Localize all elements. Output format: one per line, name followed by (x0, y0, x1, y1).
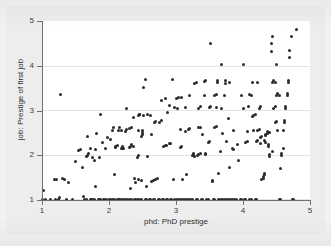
data-point (288, 49, 291, 52)
data-point (240, 94, 243, 97)
data-point (223, 94, 226, 97)
data-point (94, 185, 97, 188)
data-point (144, 78, 147, 81)
data-point (295, 28, 298, 31)
data-point (132, 145, 135, 148)
x-tick-label: 4 (233, 207, 253, 215)
data-point (124, 130, 127, 133)
data-point (132, 116, 135, 119)
data-point (180, 96, 183, 99)
data-point (146, 155, 149, 158)
x-tick-label: 2 (99, 207, 119, 215)
data-point (225, 140, 228, 143)
data-point (256, 81, 259, 84)
data-point (142, 114, 145, 117)
data-point (55, 178, 58, 181)
data-point (169, 142, 172, 145)
data-point (246, 140, 249, 143)
data-point (221, 132, 224, 135)
x-tick-mark (42, 200, 43, 205)
data-point (165, 144, 168, 147)
data-point (180, 145, 183, 148)
data-point (279, 167, 282, 170)
data-point (258, 128, 261, 131)
data-point (209, 42, 212, 45)
data-point (134, 181, 137, 184)
data-point (247, 105, 250, 108)
data-point (267, 143, 270, 146)
data-point (188, 127, 191, 130)
data-point (101, 141, 104, 144)
data-point (259, 105, 262, 108)
x-tick-label: 3 (166, 207, 186, 215)
data-point (271, 150, 274, 153)
y-tick-label: 1 (20, 196, 34, 204)
data-point (171, 78, 174, 81)
data-point (286, 92, 289, 95)
data-point (270, 42, 273, 45)
data-point (283, 119, 286, 122)
data-point (268, 131, 271, 134)
data-point (164, 97, 167, 100)
data-point (274, 81, 277, 84)
data-point (142, 86, 145, 89)
gridline-y3 (42, 110, 310, 111)
data-point (209, 105, 212, 108)
data-point (232, 148, 235, 151)
data-point (215, 125, 218, 128)
y-tick-mark (37, 21, 42, 22)
x-tick-mark (109, 200, 110, 205)
data-point (152, 179, 155, 182)
data-point (63, 178, 66, 181)
data-point (275, 120, 278, 123)
y-axis-title: job: Prestige of first job (16, 20, 25, 180)
data-point (168, 104, 171, 107)
data-point (176, 107, 179, 110)
data-point (104, 147, 107, 150)
data-point (184, 130, 187, 133)
data-point (228, 166, 231, 169)
data-point (160, 99, 163, 102)
data-point (179, 128, 182, 131)
data-point (130, 126, 133, 129)
x-tick-label: 1 (32, 207, 52, 215)
data-point (220, 107, 223, 110)
data-point (149, 114, 152, 117)
data-point (120, 129, 123, 132)
data-point (213, 94, 216, 97)
data-point (201, 133, 204, 136)
data-point (188, 94, 191, 97)
data-point (282, 129, 285, 132)
plot-region (42, 21, 310, 200)
data-point (112, 126, 115, 129)
x-tick-label: 5 (300, 207, 320, 215)
y-axis-line (42, 21, 43, 200)
data-point (86, 135, 89, 138)
data-point (98, 156, 101, 159)
data-point (208, 140, 211, 143)
data-point (251, 81, 254, 84)
data-point (150, 133, 153, 136)
data-point (252, 129, 255, 132)
data-point (129, 187, 132, 190)
y-tick-mark (37, 66, 42, 67)
data-point (89, 147, 92, 150)
data-point (246, 130, 249, 133)
data-point (288, 56, 291, 59)
data-point (278, 94, 281, 97)
x-tick-mark (176, 200, 177, 205)
x-tick-mark (243, 200, 244, 205)
data-point (116, 144, 119, 147)
data-point (133, 177, 136, 180)
data-point (79, 148, 82, 151)
data-point (242, 107, 245, 110)
x-tick-mark (310, 200, 311, 205)
data-point (74, 160, 77, 163)
y-tick-mark (37, 155, 42, 156)
data-point (215, 106, 218, 109)
data-point (137, 129, 140, 132)
data-point (263, 172, 266, 175)
scatter-plot-figure: 12345 12345 phd: PhD prestige job: Prest… (0, 0, 331, 246)
data-point (67, 181, 70, 184)
data-point (203, 94, 206, 97)
